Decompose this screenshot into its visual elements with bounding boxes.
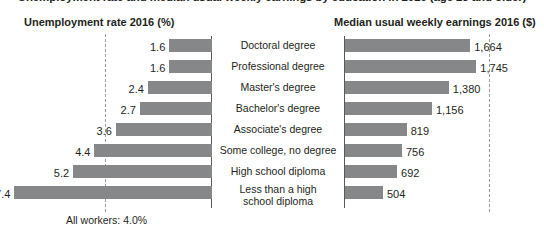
earnings-bar-row: 1,745 [345,57,485,78]
earnings-bar-row: 1,380 [345,78,485,99]
earnings-value-label: 1,664 [474,40,502,55]
unemployment-bar: 3.6 [116,123,212,136]
earnings-bar: 1,745 [345,60,476,73]
earnings-plot-area: 1,6641,7451,3801,156819756692504 [345,36,485,204]
unemployment-value-label: 4.4 [75,145,90,160]
earnings-bar: 1,156 [345,102,432,115]
unemployment-value-label: 3.6 [97,124,112,139]
earnings-bar-row: 756 [345,141,485,162]
earnings-bar-row: 1,664 [345,36,485,57]
unemployment-plot-area: 1.61.62.42.73.64.45.27.4 [0,36,212,204]
unemployment-bar: 7.4 [14,186,212,199]
earnings-panel-header: Median usual weekly earnings 2016 ($) [334,16,536,28]
unemployment-value-label: 1.6 [150,61,165,76]
unemployment-bar: 1.6 [169,60,212,73]
earnings-bar: 1,664 [345,39,470,52]
earnings-value-label: 1,156 [436,103,464,118]
unemployment-bar-row: 2.4 [0,78,212,99]
unemployment-footnote: All workers: 4.0% [66,214,147,226]
unemployment-bar: 1.6 [169,39,212,52]
chart-figure: Unemployment rate and median usual weekl… [0,0,544,242]
unemployment-panel-header: Unemployment rate 2016 (%) [24,16,174,28]
unemployment-value-label: 7.4 [0,187,10,202]
earnings-value-label: 819 [411,124,429,139]
unemployment-bar-row: 4.4 [0,141,212,162]
earnings-bar: 819 [345,123,407,136]
earnings-bar: 692 [345,165,397,178]
unemployment-bar-row: 2.7 [0,99,212,120]
unemployment-value-label: 5.2 [54,166,69,181]
earnings-value-label: 504 [387,187,405,202]
unemployment-bar-row: 3.6 [0,120,212,141]
unemployment-bar: 2.4 [148,81,212,94]
unemployment-value-label: 1.6 [150,40,165,55]
unemployment-bar-row: 1.6 [0,36,212,57]
earnings-bar: 756 [345,144,402,157]
earnings-value-label: 692 [401,166,419,181]
unemployment-bar-row: 7.4 [0,183,212,204]
earnings-bar-row: 1,156 [345,99,485,120]
earnings-bar: 1,380 [345,81,449,94]
unemployment-bar-row: 5.2 [0,162,212,183]
unemployment-bar: 2.7 [140,102,212,115]
earnings-bar-row: 819 [345,120,485,141]
earnings-bar-row: 504 [345,183,485,204]
unemployment-bar: 5.2 [73,165,212,178]
earnings-value-label: 756 [406,145,424,160]
unemployment-value-label: 2.4 [129,82,144,97]
unemployment-bar-row: 1.6 [0,57,212,78]
earnings-value-label: 1,745 [480,61,508,76]
earnings-bar-row: 692 [345,162,485,183]
unemployment-value-label: 2.7 [121,103,136,118]
earnings-value-label: 1,380 [453,82,481,97]
earnings-bar: 504 [345,186,383,199]
unemployment-bar: 4.4 [94,144,212,157]
